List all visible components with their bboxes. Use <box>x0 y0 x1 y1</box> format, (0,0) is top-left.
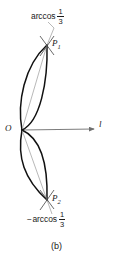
minus-sign: − <box>27 215 32 224</box>
fraction-one-third-top: 1 3 <box>57 8 63 25</box>
fraction-numerator-top: 1 <box>57 8 63 16</box>
point-label-p1: P1 <box>52 39 61 50</box>
fraction-denominator-bottom: 3 <box>59 220 65 228</box>
fraction-denominator-top: 3 <box>57 17 63 25</box>
axis-label-l: l <box>99 120 102 129</box>
arccos-text-bottom: arccos <box>32 215 56 224</box>
fraction-numerator-bottom: 1 <box>59 211 65 219</box>
point-label-p2: P2 <box>52 194 61 205</box>
angle-label-bottom: − arccos 1 3 <box>27 211 65 228</box>
axis-line-l <box>22 129 94 130</box>
angle-label-top: arccos 1 3 <box>31 8 64 25</box>
figure-caption: (b) <box>0 242 113 251</box>
arccos-text-top: arccos <box>31 12 55 21</box>
point-label-p2-subscript: 2 <box>58 198 61 205</box>
fraction-one-third-bottom: 1 3 <box>59 211 65 228</box>
origin-label: O <box>5 124 12 133</box>
figure-container: arccos 1 3 − arccos 1 3 P1 P2 O l (b) <box>0 0 113 262</box>
point-label-p1-subscript: 1 <box>58 43 61 50</box>
origin-point <box>21 129 23 131</box>
